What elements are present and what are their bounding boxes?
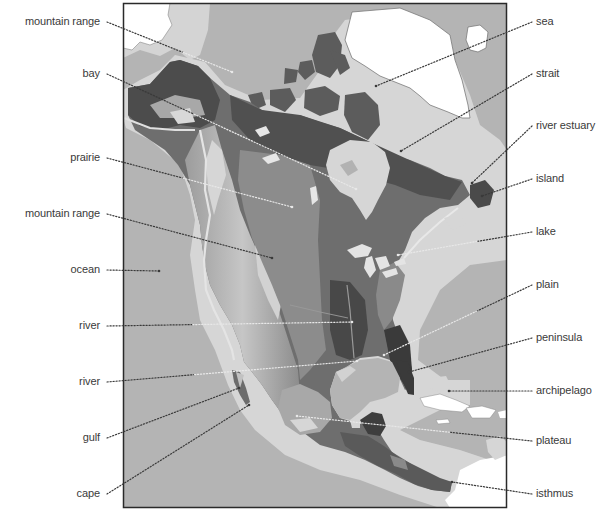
label-river-2: river xyxy=(79,375,100,388)
label-ocean: ocean xyxy=(71,263,100,276)
label-lake: lake xyxy=(536,225,556,238)
label-peninsula: peninsula xyxy=(536,331,582,344)
leader-ocean-endpoint xyxy=(158,270,161,273)
label-plateau: plateau xyxy=(536,434,571,447)
leader-river-2-endpoint xyxy=(356,360,359,363)
leader-bay-endpoint xyxy=(355,188,358,191)
leader-isthmus-endpoint xyxy=(451,481,454,484)
leader-plain-endpoint xyxy=(383,354,386,357)
leader-mountain-range-2-endpoint xyxy=(271,257,274,260)
label-prairie: prairie xyxy=(70,151,100,164)
leader-river-estuary-endpoint xyxy=(471,182,474,185)
label-island: island xyxy=(536,172,564,185)
label-river-estuary: river estuary xyxy=(536,119,595,132)
label-mountain-range-1: mountain range xyxy=(25,15,100,28)
label-mountain-range-2: mountain range xyxy=(25,207,100,220)
leader-archipelago-endpoint xyxy=(448,390,451,393)
leader-gulf-endpoint xyxy=(238,387,241,390)
label-strait: strait xyxy=(536,67,559,80)
leader-island-endpoint xyxy=(481,195,484,198)
leader-lake-endpoint xyxy=(397,254,400,257)
leader-peninsula-endpoint xyxy=(408,371,411,374)
label-isthmus: isthmus xyxy=(536,487,573,500)
label-sea: sea xyxy=(536,15,553,28)
leader-plateau-endpoint xyxy=(296,415,299,418)
label-river-1: river xyxy=(79,319,100,332)
leader-sea-endpoint xyxy=(375,85,378,88)
label-bay: bay xyxy=(83,67,100,80)
iceland xyxy=(466,25,488,52)
leader-river-1-endpoint xyxy=(351,321,354,324)
leader-cape-endpoint xyxy=(248,404,251,407)
labeled-map-diagram: mountain range bay prairie mountain rang… xyxy=(0,0,605,510)
leader-prairie-endpoint xyxy=(291,206,294,209)
label-plain: plain xyxy=(536,278,559,291)
label-cape: cape xyxy=(77,487,100,500)
leader-mountain-range-1-endpoint xyxy=(231,71,234,74)
label-archipelago: archipelago xyxy=(536,384,592,397)
leader-strait-endpoint xyxy=(400,150,403,153)
label-gulf: gulf xyxy=(83,431,100,444)
